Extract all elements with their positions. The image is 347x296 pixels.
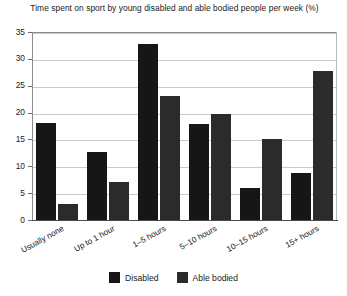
bar [291,173,311,220]
chart-title: Time spent on sport by young disabled an… [22,3,327,14]
y-tick-label: 20 [3,107,25,117]
legend-label: Disabled [125,273,158,283]
y-tick-label: 30 [3,53,25,63]
x-tick-label: Up to 1 hour [58,224,117,262]
legend-swatch [177,272,188,283]
bar [240,188,260,220]
x-axis-line [32,220,338,221]
legend-swatch [109,272,120,283]
legend-item[interactable]: Disabled [109,272,158,283]
bar [58,204,78,220]
x-tick-label: 1–5 hours [109,224,168,262]
bar [109,182,129,220]
y-tick-label: 5 [3,188,25,198]
x-tick-label: 15+ hours [261,224,320,262]
bar-chart: Time spent on sport by young disabled an… [0,0,347,296]
bar [36,123,56,220]
y-tick-label: 35 [3,27,25,37]
bar [87,152,107,220]
legend-label: Able bodied [193,273,238,283]
y-tick-label: 25 [3,80,25,90]
legend-item[interactable]: Able bodied [177,272,238,283]
y-tick-label: 15 [3,134,25,144]
bar [160,96,180,220]
bar [189,124,209,220]
chart-legend: DisabledAble bodied [0,272,347,283]
bar [262,139,282,220]
y-tick-mark [28,220,32,221]
x-tick-label: 10–15 hours [211,224,270,262]
bar [313,71,333,220]
x-tick-label: Usually none [7,224,66,262]
x-tick-label: 5–10 hours [160,224,219,262]
y-tick-label: 10 [3,161,25,171]
bar [211,114,231,220]
bar [138,44,158,220]
bars-layer [32,32,337,220]
y-tick-label: 0 [3,215,25,225]
